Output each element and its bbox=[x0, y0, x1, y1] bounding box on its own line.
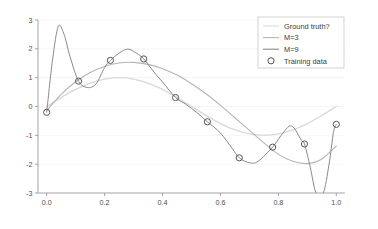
y-axis-tick-labels: 3210-1-2-3 bbox=[26, 16, 32, 198]
legend-label: Ground truth? bbox=[284, 22, 330, 31]
x-tick-label: 0.6 bbox=[215, 198, 225, 207]
y-tick-label: -3 bbox=[26, 189, 32, 198]
y-tick-label: 0 bbox=[29, 102, 33, 111]
polynomial-regression-plot: 3210-1-2-3 0.00.20.40.60.81.0 Ground tru… bbox=[0, 0, 378, 229]
x-tick-label: 0.4 bbox=[158, 198, 168, 207]
y-tick-label: -2 bbox=[26, 160, 32, 169]
y-tick-label: -1 bbox=[26, 131, 32, 140]
y-tick-label: 3 bbox=[29, 16, 33, 25]
x-tick-label: 1.0 bbox=[331, 198, 341, 207]
y-tick-label: 2 bbox=[29, 44, 33, 53]
legend: Ground truth?M=3M=9Training data bbox=[258, 17, 344, 68]
x-axis-tick-labels: 0.00.20.40.60.81.0 bbox=[42, 198, 342, 207]
x-tick-label: 0.0 bbox=[42, 198, 52, 207]
x-tick-label: 0.8 bbox=[273, 198, 283, 207]
legend-label: M=9 bbox=[284, 45, 299, 54]
chart-figure: 3210-1-2-3 0.00.20.40.60.81.0 Ground tru… bbox=[0, 0, 378, 229]
y-tick-label: 1 bbox=[29, 73, 33, 82]
legend-label: M=3 bbox=[284, 33, 299, 42]
legend-label: Training data bbox=[284, 57, 328, 66]
x-tick-label: 0.2 bbox=[100, 198, 110, 207]
